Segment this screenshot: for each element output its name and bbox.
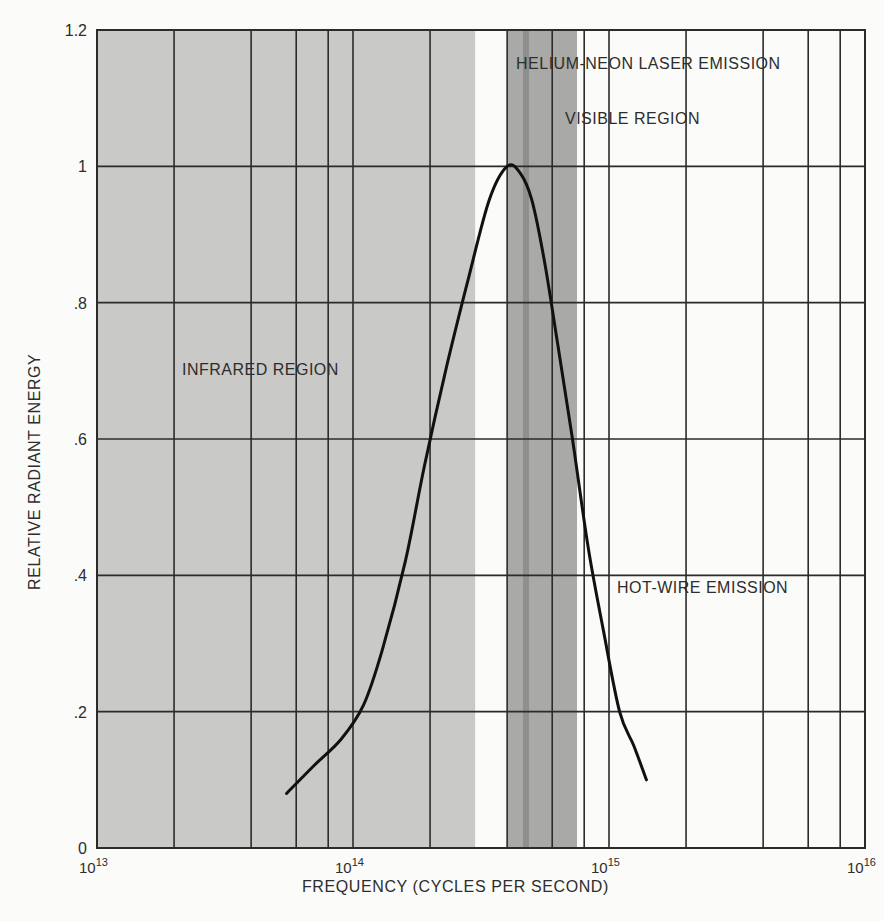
- y-tick-label: .6: [74, 431, 87, 448]
- annotation-visible-region: VISIBLE REGION: [565, 110, 700, 127]
- y-tick-label: .2: [74, 704, 87, 721]
- y-tick-label: .8: [74, 295, 87, 312]
- x-tick-label: 1013: [79, 856, 108, 876]
- x-axis-label: FREQUENCY (CYCLES PER SECOND): [302, 878, 609, 895]
- annotation-infrared-region: INFRARED REGION: [182, 361, 339, 378]
- x-tick-label: 1016: [847, 856, 876, 876]
- x-tick-label: 1015: [591, 856, 620, 876]
- annotation-hot-wire-emission: HOT-WIRE EMISSION: [617, 579, 788, 596]
- y-tick-label: 1: [78, 158, 87, 175]
- x-tick-exponent: 15: [608, 856, 620, 868]
- annotation-helium-neon: HELIUM-NEON LASER EMISSION: [516, 55, 781, 72]
- y-tick-label: 1.2: [65, 22, 87, 39]
- x-tick-exponent: 16: [864, 856, 876, 868]
- x-tick-exponent: 13: [96, 856, 108, 868]
- y-tick-label: 0: [78, 840, 87, 857]
- y-axis-ticks: 0.2.4.6.811.2: [65, 22, 87, 857]
- x-axis-ticks: 1013101410151016: [79, 856, 876, 876]
- y-axis-label: RELATIVE RADIANT ENERGY: [26, 354, 43, 590]
- y-tick-label: .4: [74, 567, 87, 584]
- x-tick-label: 1014: [335, 856, 364, 876]
- chart: 0.2.4.6.811.2 1013101410151016 HELIUM-NE…: [0, 0, 884, 921]
- x-tick-exponent: 14: [352, 856, 364, 868]
